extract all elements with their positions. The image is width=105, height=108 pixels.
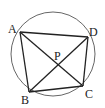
label-a: A [8, 22, 17, 36]
side-cb [29, 86, 83, 92]
side-ba [20, 32, 29, 92]
label-p: P [54, 49, 61, 63]
diagonal-ac [20, 32, 83, 86]
cyclic-quadrilateral-diagram: A D P B C [0, 0, 105, 108]
label-b: B [21, 93, 29, 107]
label-c: C [85, 87, 93, 101]
diagonal-bd [29, 37, 88, 92]
label-d: D [89, 25, 98, 39]
side-ad [20, 32, 88, 37]
